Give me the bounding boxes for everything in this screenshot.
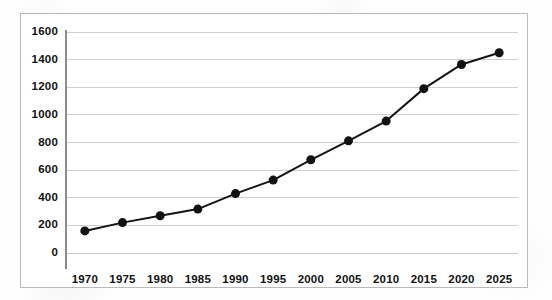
y-axis-tick-label: 200 bbox=[21, 218, 58, 230]
line-chart-plot bbox=[21, 14, 529, 289]
y-axis-tick-label: 600 bbox=[21, 163, 58, 175]
data-point-marker bbox=[344, 136, 353, 145]
data-point-markers bbox=[80, 48, 503, 235]
data-point-marker bbox=[193, 205, 202, 214]
y-axis-tick-label: 800 bbox=[21, 136, 58, 148]
data-point-marker bbox=[495, 48, 504, 57]
y-axis-tick-label: 400 bbox=[21, 191, 58, 203]
chart-figure: 02004006008001000120014001600 1970197519… bbox=[0, 0, 552, 300]
data-point-marker bbox=[419, 84, 428, 93]
data-point-marker bbox=[80, 226, 89, 235]
data-point-marker bbox=[118, 218, 127, 227]
y-axis-tick-label: 1600 bbox=[21, 25, 58, 37]
x-axis-tick-label: 2025 bbox=[477, 273, 521, 285]
data-point-marker bbox=[156, 211, 165, 220]
data-point-marker bbox=[382, 117, 391, 126]
data-point-marker bbox=[269, 176, 278, 185]
y-axis-tick-label: 1000 bbox=[21, 108, 58, 120]
series-line-path bbox=[85, 53, 499, 231]
y-axis-tick-label: 0 bbox=[21, 246, 58, 258]
y-axis-tick-label: 1400 bbox=[21, 53, 58, 65]
data-series-line bbox=[85, 53, 499, 231]
y-axis-tick-label: 1200 bbox=[21, 80, 58, 92]
data-point-marker bbox=[231, 189, 240, 198]
data-point-marker bbox=[306, 155, 315, 164]
chart-frame-border: 02004006008001000120014001600 1970197519… bbox=[20, 13, 528, 288]
data-point-marker bbox=[457, 60, 466, 69]
